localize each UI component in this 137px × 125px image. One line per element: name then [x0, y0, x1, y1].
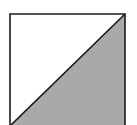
square-diagonal-diagram — [0, 0, 137, 125]
